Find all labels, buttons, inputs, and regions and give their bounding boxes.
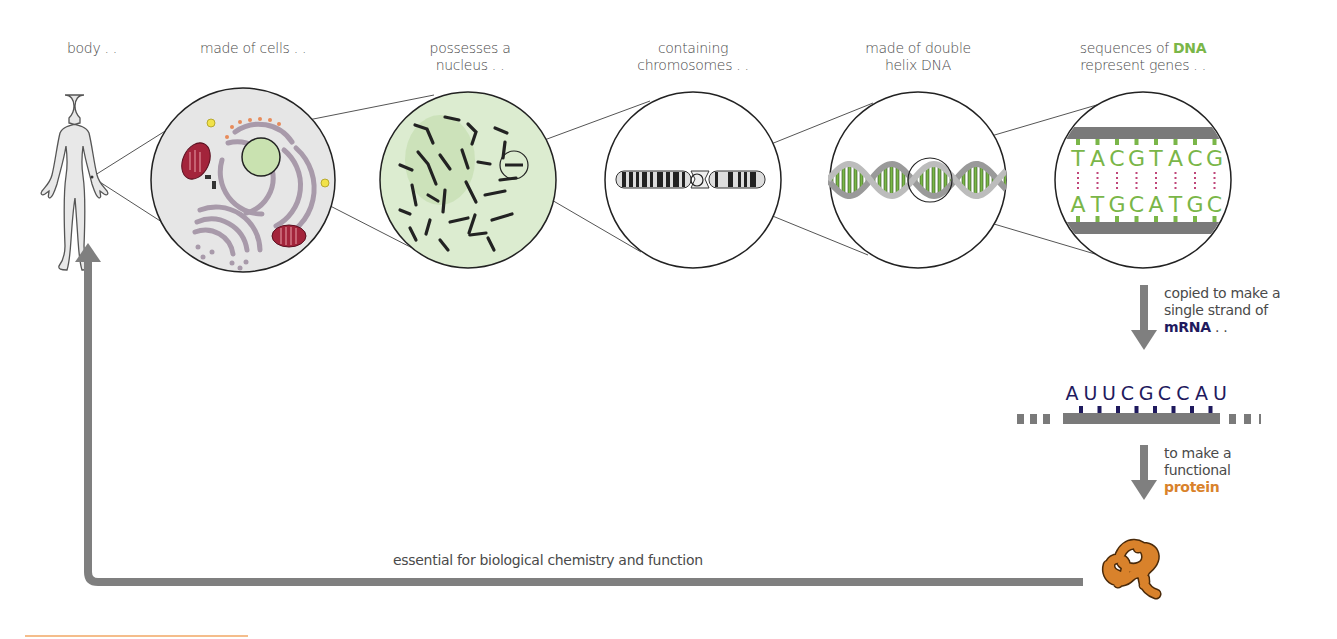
base-tick: [1076, 216, 1080, 222]
base-tick: [1174, 216, 1178, 222]
base-tick: [1213, 216, 1217, 222]
base-bottom-3: C: [1129, 192, 1144, 217]
hydrogen-bond: [1116, 182, 1118, 184]
base-bottom-5: T: [1168, 192, 1183, 217]
stage-label-nucleus: possesses anucleus . .: [400, 40, 540, 74]
hydrogen-bond: [1155, 172, 1157, 174]
base-bottom-7: C: [1207, 192, 1222, 217]
mrna-tick: [1209, 406, 1213, 413]
hydrogen-bond: [1214, 172, 1216, 174]
base-top-6: C: [1187, 146, 1202, 171]
base-bottom-0: A: [1070, 192, 1085, 217]
mrna-base-3: C: [1121, 382, 1134, 404]
mrna-strand: AUUCGCCAU: [1017, 382, 1261, 424]
helix-base-bar: [926, 167, 929, 194]
return-arrow: [75, 243, 1083, 582]
hydrogen-bond: [1116, 177, 1118, 179]
base-tick: [1193, 139, 1197, 145]
hydrogen-bond: [1077, 187, 1079, 189]
human-body-icon: [41, 95, 108, 270]
nucleus-illustration: [380, 92, 556, 268]
hydrogen-bond: [1194, 177, 1196, 179]
base-tick: [1174, 139, 1178, 145]
hydrogen-bond: [1155, 177, 1157, 179]
hydrogen-bond: [1175, 182, 1177, 184]
base-top-1: A: [1090, 146, 1105, 171]
stage-label-genes: sequences of DNA represent genes . .: [1058, 40, 1228, 74]
base-tick: [1135, 216, 1139, 222]
base-top-5: A: [1168, 146, 1183, 171]
hydrogen-bond: [1214, 177, 1216, 179]
helix-base-bar: [974, 164, 977, 195]
base-tick: [1096, 139, 1100, 145]
base-bottom-4: A: [1148, 192, 1163, 217]
double-helix-illustration: [828, 92, 1007, 268]
mrna-tick: [1172, 406, 1176, 413]
chromosome-illustration: [605, 92, 781, 268]
base-tick: [1213, 139, 1217, 145]
mrna-base-7: A: [1195, 382, 1208, 404]
stage-label-chromosomes: containingchromosomes . .: [623, 40, 763, 74]
base-top-2: C: [1109, 146, 1124, 171]
base-top-0: T: [1070, 146, 1085, 171]
stage-label-body: body . .: [32, 40, 152, 57]
hydrogen-bond: [1097, 172, 1099, 174]
hydrogen-bond: [1077, 182, 1079, 184]
mrna-base-4: G: [1139, 382, 1154, 404]
mrna-tick: [1135, 406, 1139, 413]
hydrogen-bond: [1194, 182, 1196, 184]
hydrogen-bond: [1194, 187, 1196, 189]
hydrogen-bond: [1077, 177, 1079, 179]
hydrogen-bond: [1175, 187, 1177, 189]
helix-base-bar: [980, 165, 983, 196]
hydrogen-bond: [1097, 182, 1099, 184]
base-bottom-6: G: [1186, 192, 1203, 217]
helix-base-bar: [890, 164, 893, 196]
stage-label-double-helix: made of doublehelix DNA: [848, 40, 988, 74]
dna-sequence-illustration: TAATCGGCTAATCGGC: [1050, 92, 1240, 268]
hydrogen-bond: [1116, 172, 1118, 174]
mrna-tick: [1153, 406, 1157, 413]
mrna-tick: [1190, 406, 1194, 413]
stage-label-cells: made of cells . .: [183, 40, 323, 57]
base-top-4: T: [1148, 146, 1163, 171]
helix-base-bar: [932, 164, 935, 196]
base-tick: [1154, 216, 1158, 222]
mrna-base-5: C: [1158, 382, 1171, 404]
base-bottom-2: G: [1108, 192, 1125, 217]
mrna-step-label: copied to make a single strand of mRNA .…: [1164, 285, 1280, 336]
translation-arrow: [1131, 445, 1157, 500]
mrna-tick: [1079, 406, 1083, 413]
hydrogen-bond: [1194, 172, 1196, 174]
base-tick: [1096, 216, 1100, 222]
base-tick: [1115, 216, 1119, 222]
mrna-base-8: U: [1213, 382, 1227, 404]
hydrogen-bond: [1155, 187, 1157, 189]
mrna-tick: [1116, 406, 1120, 413]
hydrogen-bond: [1136, 182, 1138, 184]
hydrogen-bond: [1136, 172, 1138, 174]
base-tick: [1135, 139, 1139, 145]
base-bottom-1: T: [1090, 192, 1105, 217]
nucleus-icon: [242, 138, 280, 176]
diagram-canvas: TAATCGGCTAATCGGC AUUCGCCAU: [0, 0, 1337, 639]
mrna-base-0: A: [1066, 382, 1079, 404]
base-tick: [1076, 139, 1080, 145]
hydrogen-bond: [1077, 172, 1079, 174]
base-tick: [1154, 139, 1158, 145]
transcription-arrow: [1131, 285, 1157, 350]
hydrogen-bond: [1214, 182, 1216, 184]
hydrogen-bond: [1175, 177, 1177, 179]
return-label: essential for biological chemistry and f…: [393, 552, 703, 569]
mrna-tick: [1098, 406, 1102, 413]
protein-step-label: to make a functional protein: [1164, 445, 1231, 496]
cell-illustration: [151, 88, 335, 272]
base-top-7: G: [1206, 146, 1223, 171]
mrna-base-2: U: [1102, 382, 1116, 404]
protein-icon: [1107, 544, 1156, 594]
hydrogen-bond: [1214, 187, 1216, 189]
hydrogen-bond: [1097, 187, 1099, 189]
helix-base-bar: [968, 167, 971, 193]
helix-base-bar: [848, 164, 851, 196]
hydrogen-bond: [1097, 177, 1099, 179]
